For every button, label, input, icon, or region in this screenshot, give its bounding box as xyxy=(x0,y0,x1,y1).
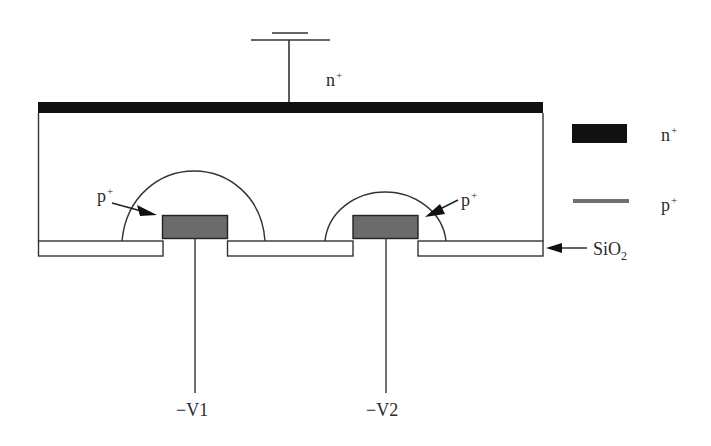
label-top-n-plus: n+ xyxy=(326,70,342,89)
label-v2: −V2 xyxy=(366,401,398,419)
n-plus-layer xyxy=(38,102,543,113)
ground-symbol xyxy=(251,33,330,102)
p-plus-pad-1 xyxy=(163,216,228,239)
legend-p-plus-label: p+ xyxy=(661,195,677,214)
substrate-body xyxy=(39,113,544,241)
arrow-left-pplus xyxy=(112,203,157,216)
label-left-p-plus: p+ xyxy=(97,186,113,205)
label-right-p-plus: p+ xyxy=(461,190,477,209)
legend-n-plus-swatch xyxy=(572,124,627,143)
arrow-sio2 xyxy=(546,243,587,253)
sio2-layer xyxy=(39,241,544,256)
pin-diode-array-diagram xyxy=(0,0,711,446)
label-v1: −V1 xyxy=(176,401,208,419)
legend-p-plus-swatch xyxy=(573,199,629,203)
label-sio2: SiO2 xyxy=(593,240,627,262)
p-plus-pad-2 xyxy=(353,216,418,239)
legend-n-plus-label: n+ xyxy=(661,125,677,144)
